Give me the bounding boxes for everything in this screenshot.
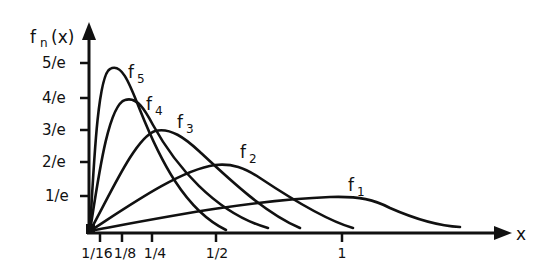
curve-f5 [90,68,226,231]
svg-text:f: f [128,62,135,82]
y-axis-label: f n (x) [30,27,74,50]
label-f3: f 3 [177,112,194,136]
x-tick-label: 1/8 [114,245,137,261]
x-tick-label: 1/2 [206,245,229,261]
y-tick-label: 3/e [42,121,66,139]
y-tick-label: 2/e [42,153,66,171]
x-axis-label: x [516,224,526,244]
svg-text:f: f [177,112,184,132]
svg-text:5: 5 [137,72,145,86]
curves [90,68,460,231]
y-axis-arrow-icon [82,22,96,40]
x-tick-label: 1/16 [81,245,113,261]
label-f5: f 5 [128,62,145,86]
y-tick-label: 4/e [42,89,66,107]
y-tick-label: 1/e [45,187,69,205]
svg-text:(x): (x) [51,27,74,47]
x-axis-arrow-icon [494,226,512,240]
y-tick-label: 5/e [42,54,66,72]
svg-text:n: n [40,36,48,50]
svg-text:f: f [240,142,247,162]
label-f1: f 1 [348,175,365,199]
chart: 5/e 4/e 3/e 2/e 1/e 1/16 1/8 1/4 1/2 1 f… [0,0,546,274]
svg-text:f: f [348,175,355,195]
x-tick-label: 1/4 [144,245,167,261]
x-tick-label: 1 [338,245,347,261]
svg-text:1: 1 [357,185,365,199]
svg-text:f: f [146,94,153,114]
svg-text:2: 2 [249,152,257,166]
svg-text:3: 3 [186,122,194,136]
label-f2: f 2 [240,142,257,166]
svg-text:f: f [30,27,37,47]
svg-text:4: 4 [155,104,163,118]
